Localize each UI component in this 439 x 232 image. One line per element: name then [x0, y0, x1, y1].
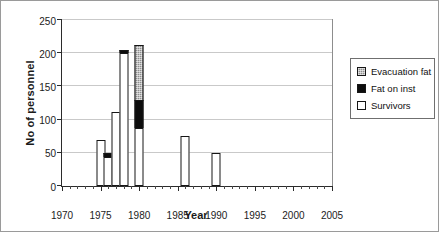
legend-label: Fat on inst — [371, 83, 415, 94]
x-tick-major — [62, 186, 63, 191]
bar-segment — [119, 53, 128, 186]
bar — [181, 136, 190, 186]
gridline — [62, 119, 332, 120]
chart-figure: No of personnel 050100150200250 19701975… — [0, 0, 439, 232]
x-tick-minor — [131, 186, 132, 189]
x-tick-minor — [278, 186, 279, 189]
x-tick-major — [332, 186, 333, 191]
bar-segment — [212, 153, 221, 186]
x-tick-minor — [201, 186, 202, 189]
x-tick-minor — [193, 186, 194, 189]
gridline — [62, 19, 332, 20]
x-tick-minor — [124, 186, 125, 189]
x-tick-minor — [317, 186, 318, 189]
x-tick-minor — [185, 186, 186, 189]
x-tick-minor — [232, 186, 233, 189]
chart-legend: Evacuation fatFat on instSurvivors — [350, 58, 435, 119]
x-tick-minor — [286, 186, 287, 189]
legend-swatch-icon — [357, 84, 366, 93]
y-tick — [57, 19, 62, 20]
x-tick-major — [101, 186, 102, 191]
x-axis-title: Year — [61, 209, 331, 221]
x-tick-minor — [162, 186, 163, 189]
bar — [135, 45, 144, 186]
x-tick-minor — [263, 186, 264, 189]
y-tick — [57, 152, 62, 153]
x-tick-minor — [324, 186, 325, 189]
legend-item: Fat on inst — [357, 83, 429, 94]
x-tick-major — [178, 186, 179, 191]
plot-area: 050100150200250 197019751980198519901995… — [61, 19, 333, 186]
legend-label: Survivors — [371, 100, 411, 111]
x-tick-minor — [301, 186, 302, 189]
legend-label: Evacuation fat — [371, 66, 431, 77]
x-tick-minor — [224, 186, 225, 189]
bar — [212, 153, 221, 186]
x-tick-minor — [309, 186, 310, 189]
x-tick-minor — [155, 186, 156, 189]
x-tick-minor — [247, 186, 248, 189]
x-tick-minor — [108, 186, 109, 189]
x-tick-minor — [85, 186, 86, 189]
legend-swatch-icon — [357, 101, 366, 110]
y-tick-label: 0 — [50, 181, 56, 192]
x-tick-major — [139, 186, 140, 191]
bar-segment — [135, 100, 144, 128]
bar-segment — [135, 128, 144, 186]
x-tick-minor — [209, 186, 210, 189]
gridline — [62, 85, 332, 86]
x-tick-minor — [77, 186, 78, 189]
x-tick-major — [293, 186, 294, 191]
x-tick-minor — [147, 186, 148, 189]
x-tick-major — [255, 186, 256, 191]
legend-swatch-icon — [357, 67, 366, 76]
bar-segment — [181, 136, 190, 186]
y-tick — [57, 119, 62, 120]
x-tick-minor — [239, 186, 240, 189]
legend-item: Evacuation fat — [357, 66, 429, 77]
bar — [119, 50, 128, 186]
y-tick-label: 250 — [39, 15, 56, 26]
x-tick-minor — [270, 186, 271, 189]
x-tick-minor — [93, 186, 94, 189]
y-tick-label: 50 — [45, 148, 56, 159]
y-tick-label: 200 — [39, 48, 56, 59]
bar-segment — [135, 45, 144, 99]
y-tick-label: 150 — [39, 81, 56, 92]
legend-item: Survivors — [357, 100, 429, 111]
x-tick-major — [216, 186, 217, 191]
x-tick-minor — [70, 186, 71, 189]
y-tick — [57, 52, 62, 53]
gridline — [62, 52, 332, 53]
y-axis-title: No of personnel — [24, 28, 36, 178]
y-tick-label: 100 — [39, 115, 56, 126]
x-tick-minor — [116, 186, 117, 189]
x-tick-minor — [170, 186, 171, 189]
y-tick — [57, 85, 62, 86]
